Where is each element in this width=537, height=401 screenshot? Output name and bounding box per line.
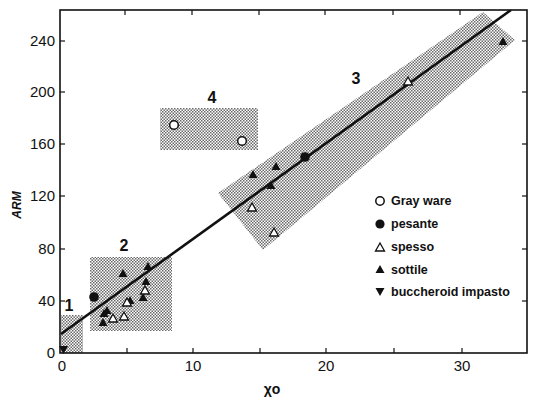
inverted-triangle-icon — [376, 288, 385, 296]
legend-item-buccheroid-impasto: buccheroid impasto — [376, 285, 511, 299]
x-tick-30: 30 — [454, 357, 471, 374]
x-tick-0: 0 — [58, 357, 66, 374]
legend-item-spesso: spesso — [376, 240, 435, 254]
open-circle-icon — [376, 197, 384, 205]
y-tick-200: 200 — [30, 83, 55, 100]
scatter-chart: 0 40 80 120 160 200 240 0 10 20 30 ARM χ… — [0, 0, 537, 401]
legend-label: Gray ware — [391, 194, 452, 208]
region-3-band — [218, 12, 515, 250]
region-label-3: 3 — [352, 70, 361, 87]
legend-label: spesso — [391, 240, 434, 254]
legend-item-gray-ware: Gray ware — [376, 194, 452, 208]
region-label-4: 4 — [208, 89, 217, 106]
x-tick-10: 10 — [185, 357, 202, 374]
y-tick-40: 40 — [38, 292, 55, 309]
y-tick-240: 240 — [30, 32, 55, 49]
legend-item-pesante: pesante — [375, 217, 438, 231]
y-tick-0: 0 — [47, 344, 55, 361]
legend-item-sottile: sottile — [376, 263, 428, 277]
legend-label: sottile — [391, 263, 428, 277]
legend: Gray ware pesante spesso sottile buccher… — [375, 194, 510, 299]
open-triangle-icon — [376, 243, 385, 251]
data-point — [89, 292, 99, 302]
y-axis-title: ARM — [10, 190, 24, 219]
x-tick-labels: 0 10 20 30 — [58, 357, 471, 374]
region-label-2: 2 — [120, 237, 129, 254]
y-tick-80: 80 — [38, 240, 55, 257]
legend-label: pesante — [391, 217, 438, 231]
filled-circle-icon — [375, 219, 384, 228]
data-point — [300, 152, 310, 162]
data-point — [238, 137, 247, 146]
x-tick-20: 20 — [318, 357, 335, 374]
y-tick-120: 120 — [30, 187, 55, 204]
y-tick-labels: 0 40 80 120 160 200 240 — [30, 32, 55, 361]
y-tick-160: 160 — [30, 135, 55, 152]
legend-label: buccheroid impasto — [391, 285, 510, 299]
data-point — [170, 121, 179, 130]
region-label-1: 1 — [65, 297, 74, 314]
filled-triangle-icon — [376, 265, 385, 273]
x-axis-title: χo — [264, 381, 281, 397]
